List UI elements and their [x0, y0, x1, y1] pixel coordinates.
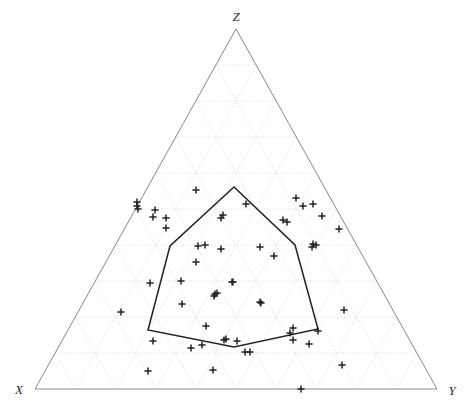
ternary-axis-triangle [35, 29, 437, 389]
grid-line-family-1 [156, 137, 297, 389]
data-point-marker [117, 308, 124, 315]
data-point-marker [192, 258, 199, 265]
data-point-marker [257, 299, 264, 306]
data-point-marker [144, 367, 151, 374]
data-point-marker [318, 212, 325, 219]
grid-line-family-2 [55, 353, 75, 389]
data-point-marker [338, 361, 345, 368]
hull-polygon [148, 187, 318, 347]
data-point-marker [229, 278, 236, 285]
ternary-plot-container: ZXY [0, 0, 464, 411]
data-point-marker [299, 202, 306, 209]
data-point-marker [202, 322, 209, 329]
grid-line-family-2 [216, 65, 397, 389]
data-point-marker [192, 186, 199, 193]
corner-label-y: Y [448, 383, 457, 398]
data-point-marker [198, 341, 205, 348]
data-point-marker [289, 336, 296, 343]
data-point-marker [201, 241, 208, 248]
data-point-marker [209, 366, 216, 373]
data-point-marker [270, 252, 277, 259]
data-point-marker [149, 337, 156, 344]
data-point-marker [292, 194, 299, 201]
data-point-marker [256, 243, 263, 250]
ternary-plot-svg: ZXY [0, 0, 464, 411]
grid-line-family-2 [95, 281, 155, 389]
data-point-marker [233, 337, 240, 344]
data-point-marker [256, 298, 263, 305]
data-point-marker [151, 206, 158, 213]
grid-line-family-1 [316, 281, 376, 389]
grid-line-family-2 [176, 137, 317, 389]
data-point-marker [146, 279, 153, 286]
data-point-marker [194, 242, 201, 249]
data-point-marker [335, 225, 342, 232]
grid-line-family-1 [397, 353, 417, 389]
data-point-marker [246, 348, 253, 355]
data-point-marker [162, 224, 169, 231]
apex-label-z: Z [232, 9, 240, 24]
data-point-marker [177, 277, 184, 284]
data-point-marker [149, 213, 156, 220]
data-point-marker [187, 344, 194, 351]
data-point-marker [297, 385, 304, 392]
corner-label-x: X [14, 382, 24, 397]
data-point-marker [340, 306, 347, 313]
data-point-marker [309, 200, 316, 207]
data-point-marker [162, 214, 169, 221]
grid-line-family-2 [136, 209, 237, 389]
data-point-marker [178, 300, 185, 307]
data-point-marker [217, 245, 224, 252]
data-points [117, 186, 347, 392]
data-point-marker [314, 327, 321, 334]
data-point-marker [305, 340, 312, 347]
